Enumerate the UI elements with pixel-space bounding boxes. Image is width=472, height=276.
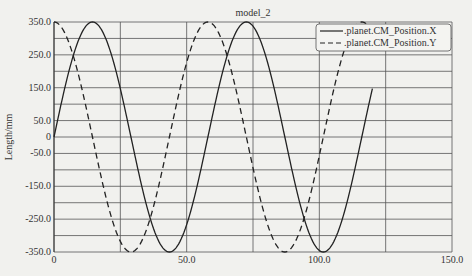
x-axis-ticks: 050.0100.0150.0 bbox=[52, 254, 464, 265]
chart-title: model_2 bbox=[236, 7, 271, 18]
y-tick-label: -50.0 bbox=[30, 147, 51, 158]
grid-lines bbox=[54, 22, 452, 252]
y-tick-label: 250.0 bbox=[29, 49, 52, 60]
y-tick-label: 150.0 bbox=[29, 82, 52, 93]
y-tick-label: -350.0 bbox=[25, 246, 51, 257]
y-tick-label: 350.0 bbox=[29, 16, 52, 27]
legend-label-x: .planet.CM_Position.X bbox=[344, 25, 437, 36]
y-tick-label: -250.0 bbox=[25, 213, 51, 224]
legend: .planet.CM_Position.X .planet.CM_Positio… bbox=[316, 24, 451, 51]
y-tick-label: 0 bbox=[46, 131, 51, 142]
x-tick-label: 150.0 bbox=[441, 254, 464, 265]
y-axis-ticks: 350.0250.0150.050.00-50.0-150.0-250.0-35… bbox=[25, 16, 51, 257]
y-tick-label: 50.0 bbox=[34, 115, 52, 126]
y-tick-label: -150.0 bbox=[25, 180, 51, 191]
x-tick-label: 100.0 bbox=[308, 254, 331, 265]
y-axis-label: Length/mm bbox=[3, 113, 14, 160]
x-tick-label: 0 bbox=[52, 254, 57, 265]
line-chart: model_2 350.0250.0150.050.00-50.0-150.0-… bbox=[0, 0, 472, 276]
legend-label-y: .planet.CM_Position.Y bbox=[344, 37, 437, 48]
x-tick-label: 50.0 bbox=[178, 254, 196, 265]
